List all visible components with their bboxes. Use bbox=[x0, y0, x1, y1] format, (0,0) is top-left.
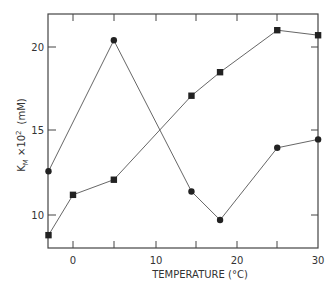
y-ticks bbox=[48, 47, 318, 215]
square-marker bbox=[45, 232, 51, 238]
circle-marker bbox=[217, 217, 223, 223]
square-marker bbox=[274, 27, 280, 33]
square-marker bbox=[315, 32, 321, 38]
y-axis-label: KM ×102(mM) bbox=[15, 98, 30, 172]
circle-marker bbox=[188, 188, 194, 194]
series-squares bbox=[45, 27, 321, 238]
x-axis-label: TEMPERATURE (°C) bbox=[151, 269, 248, 280]
x-tick-label: 0 bbox=[70, 255, 76, 266]
y-tick-label: 10 bbox=[31, 210, 44, 221]
y-tick-label: 15 bbox=[31, 125, 44, 136]
circle-marker bbox=[45, 168, 51, 174]
x-tick-label: 30 bbox=[312, 255, 325, 266]
circle-marker bbox=[111, 37, 117, 43]
square-marker bbox=[188, 93, 194, 99]
x-ticks bbox=[73, 14, 277, 248]
square-marker bbox=[70, 192, 76, 198]
svg-text:KM ×102(mM): KM ×102(mM) bbox=[15, 98, 30, 172]
y-tick-label: 20 bbox=[31, 42, 44, 53]
x-tick-label: 10 bbox=[150, 255, 163, 266]
circle-marker bbox=[315, 136, 321, 142]
chart: 0 10 20 30 10 15 20 TEMPERATURE (°C) KM … bbox=[0, 0, 336, 287]
plot-frame bbox=[48, 14, 318, 248]
square-marker bbox=[111, 177, 117, 183]
x-tick-label: 20 bbox=[231, 255, 244, 266]
square-marker bbox=[217, 69, 223, 75]
series-circles bbox=[45, 37, 321, 223]
circle-marker bbox=[274, 145, 280, 151]
